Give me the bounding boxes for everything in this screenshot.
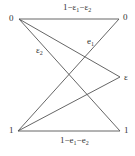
- edge-label-top: 1−ε1−ε2: [63, 3, 91, 13]
- node-bottom-left: 1: [9, 126, 14, 135]
- channel-diagram-lines: [0, 0, 135, 156]
- edge-label-e1: e1: [87, 37, 94, 47]
- node-top-right: 0: [123, 13, 128, 22]
- edge-label-bottom: 1−e1−e2: [60, 136, 89, 146]
- node-bottom-right: 1: [124, 126, 129, 135]
- edge-0r-to-1l: [18, 19, 119, 131]
- node-mid-right: ε: [124, 73, 128, 82]
- edge-0-to-eps: [19, 19, 120, 77]
- edge-label-eps2: ε2: [36, 46, 43, 56]
- node-top-left: 0: [9, 14, 14, 23]
- edge-0-to-1: [19, 19, 120, 131]
- edge-1-to-eps: [18, 77, 120, 131]
